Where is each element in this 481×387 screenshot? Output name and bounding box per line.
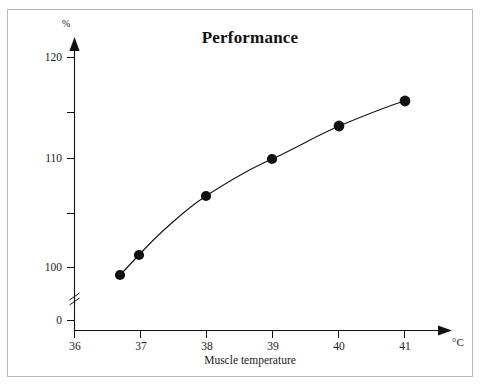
y-tick-label-120: 120 (28, 51, 62, 63)
x-tick-label-36: 36 (60, 340, 90, 352)
data-point-marker (115, 270, 125, 280)
data-point-marker (267, 154, 277, 164)
x-axis-unit-label: °C (452, 336, 464, 348)
y-tick-label-0: 0 (28, 314, 62, 326)
data-point-marker (334, 121, 345, 132)
x-tick-label-37: 37 (126, 340, 156, 352)
x-tick-label-40: 40 (324, 340, 354, 352)
data-line-performance (120, 101, 405, 275)
data-point-marker (134, 250, 144, 260)
chart-title: Performance (170, 28, 330, 48)
x-axis-arrowhead (438, 325, 452, 335)
x-tick-label-38: 38 (192, 340, 222, 352)
data-point-marker (400, 96, 411, 107)
y-axis-arrowhead (69, 37, 79, 51)
chart-figure: Performance % °C 120 110 100 0 36 37 38 … (0, 0, 481, 387)
y-axis-unit-label: % (62, 18, 70, 29)
x-tick-label-41: 41 (390, 340, 420, 352)
data-point-marker (201, 191, 211, 201)
y-tick-label-110: 110 (28, 152, 62, 164)
x-tick-label-39: 39 (258, 340, 288, 352)
x-axis-title: Muscle temperature (160, 354, 340, 366)
y-tick-label-100: 100 (28, 261, 62, 273)
plot-area (0, 0, 481, 387)
